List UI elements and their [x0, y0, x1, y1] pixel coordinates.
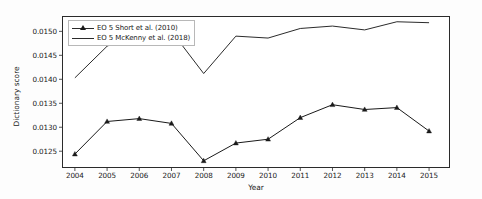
y-tick-label: 0.0125 — [32, 147, 57, 156]
data-point-marker — [330, 102, 335, 106]
x-tick-label: 2008 — [195, 171, 213, 180]
x-tick-label: 2013 — [356, 171, 374, 180]
x-tick-label: 2010 — [259, 171, 277, 180]
chart-legend[interactable]: EO 5 Short et al. (2010) EO 5 McKenny et… — [68, 20, 195, 46]
legend-item-short: EO 5 Short et al. (2010) — [72, 23, 190, 33]
data-point-marker — [266, 137, 271, 141]
x-tick-label: 2015 — [420, 171, 438, 180]
y-tick-label: 0.0150 — [32, 27, 57, 36]
legend-line-icon — [72, 33, 94, 43]
x-tick-label: 2011 — [291, 171, 309, 180]
series-short-2010 — [72, 102, 431, 163]
data-point-marker — [137, 116, 142, 120]
y-axis-ticks — [59, 31, 62, 151]
y-axis-title: Dictionary score — [12, 47, 21, 147]
x-tick-label: 2007 — [163, 171, 181, 180]
y-tick-label: 0.0140 — [32, 75, 57, 84]
x-tick-label: 2012 — [324, 171, 342, 180]
data-point-marker — [427, 128, 432, 132]
x-axis-title: Year — [62, 183, 450, 192]
x-tick-label: 2006 — [130, 171, 148, 180]
y-axis-tick-labels: 0.01250.01300.01350.01400.01450.0150 — [0, 0, 57, 199]
legend-marker-triangle-icon — [72, 23, 94, 33]
x-axis-ticks — [75, 168, 429, 171]
y-tick-label: 0.0145 — [32, 51, 57, 60]
x-tick-label: 2009 — [227, 171, 245, 180]
legend-label: EO 5 McKenny et al. (2018) — [97, 34, 190, 42]
y-tick-label: 0.0135 — [32, 99, 57, 108]
x-tick-label: 2004 — [66, 171, 84, 180]
y-tick-label: 0.0130 — [32, 123, 57, 132]
x-tick-label: 2014 — [388, 171, 406, 180]
x-tick-label: 2005 — [98, 171, 116, 180]
legend-item-mckenny: EO 5 McKenny et al. (2018) — [72, 33, 190, 43]
legend-label: EO 5 Short et al. (2010) — [97, 24, 178, 32]
chart-figure: 0.01250.01300.01350.01400.01450.0150 200… — [0, 0, 482, 199]
